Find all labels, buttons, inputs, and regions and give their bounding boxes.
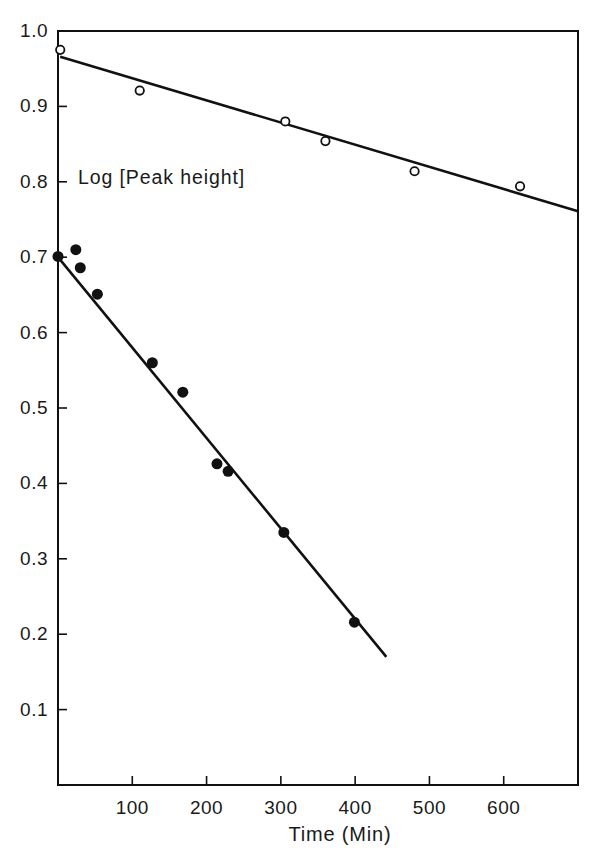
y-axis-tick-marks: [58, 31, 67, 710]
y-axis-tick-label: 0.2: [20, 623, 48, 645]
x-axis-tick-label: 300: [264, 797, 297, 819]
y-axis-tick-label: 0.3: [20, 548, 48, 570]
x-axis-tick-label: 500: [413, 797, 446, 819]
regression-lines: [58, 57, 578, 657]
x-axis-tick-label: 200: [190, 797, 223, 819]
y-axis-tick-label: 0.1: [20, 699, 48, 721]
y-axis-tick-label: 0.7: [20, 246, 48, 268]
y-axis-tick-label: 0.9: [20, 95, 48, 117]
x-axis-tick-label: 400: [339, 797, 372, 819]
x-axis-title: Time (Min): [289, 823, 392, 846]
x-axis-tick-label: 100: [116, 797, 149, 819]
y-axis-tick-label: 0.6: [20, 322, 48, 344]
plot-area: [0, 0, 596, 857]
figure-canvas: 0.10.20.30.40.50.60.70.80.91.0 100200300…: [0, 0, 596, 857]
axis-frame: [58, 31, 578, 785]
y-axis-tick-label: 0.4: [20, 472, 48, 494]
x-axis-tick-label: 600: [487, 797, 520, 819]
x-axis-tick-marks: [132, 776, 503, 785]
y-axis-tick-label: 0.5: [20, 397, 48, 419]
plot-annotation-label: Log [Peak height]: [78, 166, 245, 189]
y-axis-tick-label: 0.8: [20, 171, 48, 193]
y-axis-tick-label: 1.0: [20, 20, 48, 42]
